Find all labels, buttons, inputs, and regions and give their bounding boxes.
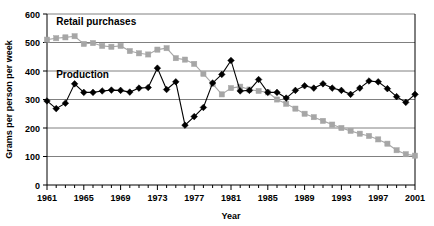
data-point <box>366 133 371 138</box>
data-point <box>320 81 327 88</box>
x-tick-label: 1993 <box>331 193 351 203</box>
data-point <box>274 97 279 102</box>
y-tick-label: 200 <box>25 124 40 134</box>
data-point <box>62 100 69 107</box>
line-chart: 0100200300400500600 19611965196919731977… <box>0 0 434 226</box>
data-point <box>219 92 224 97</box>
y-tick-label: 600 <box>25 10 40 20</box>
data-point <box>81 41 86 46</box>
x-tick-label: 1997 <box>368 193 388 203</box>
data-point <box>403 152 408 157</box>
y-tick-label: 100 <box>25 152 40 162</box>
x-tick-label: 1989 <box>295 193 315 203</box>
data-point <box>311 115 316 120</box>
data-point <box>154 65 161 72</box>
data-point <box>302 111 307 116</box>
data-point <box>109 44 114 49</box>
x-tick-label: 1977 <box>184 193 204 203</box>
data-point <box>90 40 95 45</box>
data-point <box>293 106 298 111</box>
y-tick-label: 0 <box>35 181 40 191</box>
series-2 <box>44 57 419 128</box>
data-point <box>201 71 206 76</box>
y-axis-label: Grams per person per week <box>4 39 14 159</box>
data-point <box>127 48 132 53</box>
y-tick-label: 400 <box>25 67 40 77</box>
series-annotation: Retail purchases <box>56 16 136 27</box>
x-axis-ticks: 1961196519691973197719811985198919931997… <box>37 185 425 203</box>
y-tick-label: 300 <box>25 95 40 105</box>
data-point <box>339 125 344 130</box>
data-point <box>228 86 233 91</box>
data-point <box>274 89 281 96</box>
data-point <box>118 43 123 48</box>
data-point <box>284 101 289 106</box>
data-point <box>54 36 59 41</box>
series-line <box>47 36 415 155</box>
data-point <box>394 148 399 153</box>
data-point <box>347 91 354 98</box>
data-point <box>63 35 68 40</box>
data-point <box>311 85 318 92</box>
data-point <box>117 87 124 94</box>
x-tick-label: 1961 <box>37 193 57 203</box>
data-point <box>330 122 335 127</box>
y-tick-label: 500 <box>25 38 40 48</box>
x-tick-label: 1965 <box>74 193 94 203</box>
data-point <box>173 56 178 61</box>
data-point <box>338 87 345 94</box>
x-tick-label: 2001 <box>405 193 425 203</box>
data-point <box>182 57 187 62</box>
x-tick-label: 1985 <box>258 193 278 203</box>
data-point <box>136 85 143 92</box>
x-axis-label: Year <box>221 211 241 221</box>
data-point <box>228 57 235 64</box>
series-1 <box>44 34 417 159</box>
y-axis-ticks: 0100200300400500600 <box>25 10 47 191</box>
data-point <box>155 47 160 52</box>
data-point <box>99 88 106 95</box>
x-tick-label: 1973 <box>147 193 167 203</box>
data-point <box>127 89 134 96</box>
data-point <box>145 84 152 91</box>
data-point <box>72 34 77 39</box>
chart-container: 0100200300400500600 19611965196919731977… <box>0 0 434 226</box>
data-point <box>100 43 105 48</box>
data-point <box>192 61 197 66</box>
x-tick-label: 1981 <box>221 193 241 203</box>
data-series <box>44 34 419 159</box>
data-point <box>348 128 353 133</box>
data-point <box>90 89 97 96</box>
data-point <box>385 141 390 146</box>
data-point <box>357 131 362 136</box>
data-point <box>376 137 381 142</box>
data-point <box>136 51 141 56</box>
data-point <box>412 153 417 158</box>
data-point <box>256 88 261 93</box>
data-point <box>44 37 49 42</box>
data-point <box>146 52 151 57</box>
data-point <box>329 85 336 92</box>
data-point <box>320 118 325 123</box>
series-annotation: Production <box>56 69 109 80</box>
x-tick-label: 1969 <box>111 193 131 203</box>
data-point <box>164 46 169 51</box>
data-point <box>108 87 115 94</box>
data-point <box>301 83 308 90</box>
